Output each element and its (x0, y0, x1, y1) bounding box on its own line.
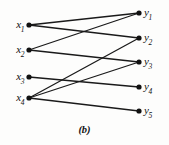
graph-node-y1 (136, 10, 141, 15)
node-label-x3: x3 (8, 71, 25, 85)
graph-node-y4 (136, 84, 141, 89)
graph-edge-x2-y3 (29, 50, 139, 62)
graph-edge-x3-y4 (29, 77, 139, 87)
node-label-y2: y2 (144, 32, 164, 46)
node-label-y5: y5 (144, 105, 164, 119)
bipartite-graph-figure: x1x2x3x4y1y2y3y4y5 (b) (0, 0, 169, 145)
node-label-x4: x4 (8, 92, 25, 106)
graph-node-y2 (136, 35, 141, 40)
graph-node-x3 (26, 74, 31, 79)
node-label-y1: y1 (144, 7, 164, 21)
graph-node-y3 (136, 59, 141, 64)
edges-group (29, 13, 139, 111)
graph-node-x4 (26, 95, 31, 100)
graph-node-x1 (26, 22, 31, 27)
graph-node-x2 (26, 47, 31, 52)
graph-edge-x4-y5 (29, 98, 139, 111)
nodes-group (26, 10, 141, 113)
node-label-x1: x1 (8, 19, 25, 33)
graph-node-y5 (136, 108, 141, 113)
node-label-y4: y4 (144, 81, 164, 95)
node-label-x2: x2 (8, 44, 25, 58)
figure-caption: (b) (0, 124, 169, 135)
node-label-y3: y3 (144, 56, 164, 70)
